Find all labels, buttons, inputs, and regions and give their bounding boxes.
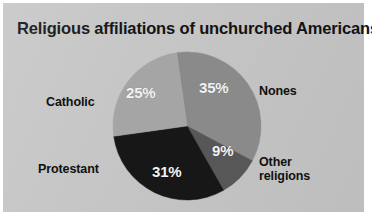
slice-label-other-religions-line2: religions (259, 169, 310, 183)
slice-value-catholic: 25% (126, 84, 155, 101)
chart-screenshot: Religious affiliations of unchurched Ame… (0, 0, 372, 222)
slice-label-catholic: Catholic (46, 95, 95, 109)
slice-label-other-religions-line1: Other (259, 155, 292, 169)
slice-value-nones: 35% (199, 79, 228, 96)
pie-chart: 35% 9% 31% 25% Nones Otherreligions Prot… (0, 0, 372, 222)
pie-chart-svg (0, 0, 372, 222)
slice-value-protestant: 31% (152, 163, 181, 180)
slice-label-protestant: Protestant (38, 162, 99, 176)
slice-value-other-religions: 9% (212, 142, 233, 159)
pie-slice-group (113, 52, 261, 200)
slice-label-nones: Nones (259, 84, 297, 98)
slice-label-other-religions: Otherreligions (259, 155, 310, 183)
